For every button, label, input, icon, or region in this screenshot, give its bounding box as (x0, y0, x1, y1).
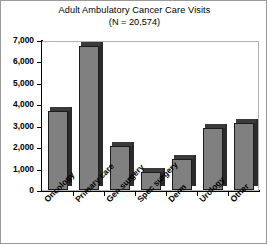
bar-side-face (254, 119, 258, 187)
bar-side-face (223, 124, 227, 186)
y-tick-mark (37, 170, 41, 171)
y-tick-mark (37, 84, 41, 85)
y-tick-label: 2,000 (13, 142, 34, 152)
y-tick-mark (37, 127, 41, 128)
y-tick-label: 5,000 (13, 78, 34, 88)
bar-front-face (234, 123, 254, 191)
bar (234, 119, 254, 191)
y-tick-mark (37, 191, 41, 192)
bar-side-face (99, 42, 103, 186)
page-title: Adult Ambulatory Cancer Care Visits (1, 4, 268, 16)
y-tick-label: 6,000 (13, 56, 34, 66)
bar-front-face (79, 46, 99, 190)
chart-subtitle: (N = 20,574) (1, 16, 268, 28)
y-tick-mark (37, 148, 41, 149)
y-tick-label: 7,000 (13, 35, 34, 45)
bar-side-face (192, 155, 196, 186)
y-tick-mark (37, 105, 41, 106)
chart-figure: Adult Ambulatory Cancer Care Visits (N =… (0, 0, 267, 244)
y-tick-label: 1,000 (13, 164, 34, 174)
y-tick-label: 0 (29, 185, 34, 195)
y-tick-label: 4,000 (13, 99, 34, 109)
bar (79, 42, 99, 190)
y-tick-mark (37, 62, 41, 63)
y-tick-label: 3,000 (13, 121, 34, 131)
y-tick-mark (37, 41, 41, 42)
plot-area (42, 41, 259, 191)
title-block: Adult Ambulatory Cancer Care Visits (N =… (1, 4, 268, 28)
